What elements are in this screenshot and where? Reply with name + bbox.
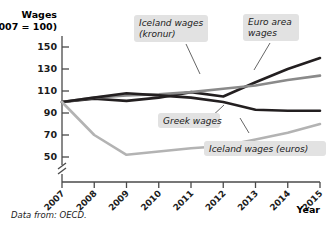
x-tick-label: 2009 — [107, 188, 131, 212]
x-tick-group: 200720082009201020112012201320142015 — [42, 182, 324, 213]
x-tick-label: 2011 — [171, 188, 195, 212]
callout-iceland-kronur: Iceland wages(kronur) — [134, 15, 208, 42]
y-tick-label: 130 — [37, 63, 57, 74]
callout-euro-area: Euro areawages — [243, 14, 299, 41]
x-tick-label: 2010 — [139, 188, 163, 212]
leader-euro-area — [254, 43, 270, 70]
x-axis-title: Year — [295, 204, 320, 215]
y-tick-label: 90 — [44, 107, 58, 118]
leader-iceland-euros — [240, 118, 249, 133]
source-note: Data from: OECD. — [11, 210, 87, 220]
x-tick-label: 2013 — [236, 188, 260, 212]
leader-iceland-kronur — [186, 44, 200, 74]
source-prefix: Data from: — [11, 210, 57, 220]
series-line-greek-wages — [62, 93, 320, 111]
x-tick-label: 2012 — [203, 188, 227, 212]
y-tick-label: 150 — [37, 41, 57, 52]
callout-label: Iceland wages — [139, 18, 204, 28]
x-tick-label: 2014 — [268, 188, 292, 212]
series-group — [62, 58, 320, 155]
callout-label: (kronur) — [139, 29, 176, 39]
source-value: OECD. — [60, 210, 87, 220]
chart-canvas: 150130110907050 200720082009201020112012… — [0, 0, 332, 232]
callout-iceland-euros: Iceland wages (euros) — [204, 141, 326, 156]
y-tick-label: 50 — [44, 151, 58, 162]
annotation-group: Iceland wages(kronur)Euro areawagesGreek… — [134, 14, 326, 156]
callout-label: wages — [248, 28, 277, 38]
y-tick-label: 70 — [44, 129, 58, 140]
callout-label: Greek wages — [163, 116, 222, 126]
callout-greek: Greek wages — [158, 113, 222, 128]
wages-index-line-chart: 150130110907050 200720082009201020112012… — [0, 0, 332, 232]
callout-label: Iceland wages (euros) — [209, 144, 308, 154]
y-tick-label: 110 — [37, 85, 57, 96]
y-axis-title: Wages — [22, 9, 58, 20]
callout-label: Euro area — [248, 17, 292, 27]
y-axis-title-sub: (2007 = 100) — [0, 21, 57, 32]
